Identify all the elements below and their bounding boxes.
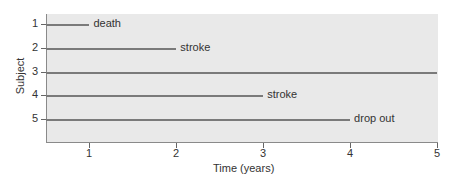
- x-tick-label: 5: [427, 147, 447, 159]
- event-label: drop out: [354, 112, 394, 124]
- event-label: stroke: [180, 41, 210, 53]
- y-tick-label: 5: [24, 112, 38, 124]
- y-axis-label: Subject: [14, 58, 26, 95]
- x-tick-label: 4: [340, 147, 360, 159]
- x-tick-label: 2: [166, 147, 186, 159]
- x-axis-label: Time (years): [213, 162, 274, 174]
- x-tick-label: 1: [79, 147, 99, 159]
- x-tick-label: 3: [253, 147, 273, 159]
- event-label: death: [93, 17, 121, 29]
- subject-line: [46, 72, 437, 74]
- subject-line: [46, 24, 89, 26]
- subject-line: [46, 119, 350, 121]
- y-tick-label: 2: [24, 41, 38, 53]
- subject-line: [46, 48, 176, 50]
- survival-timeline-chart: 1234512345deathstrokestrokedrop out Time…: [0, 0, 453, 183]
- y-tick-label: 1: [24, 17, 38, 29]
- subject-line: [46, 95, 263, 97]
- event-label: stroke: [267, 88, 297, 100]
